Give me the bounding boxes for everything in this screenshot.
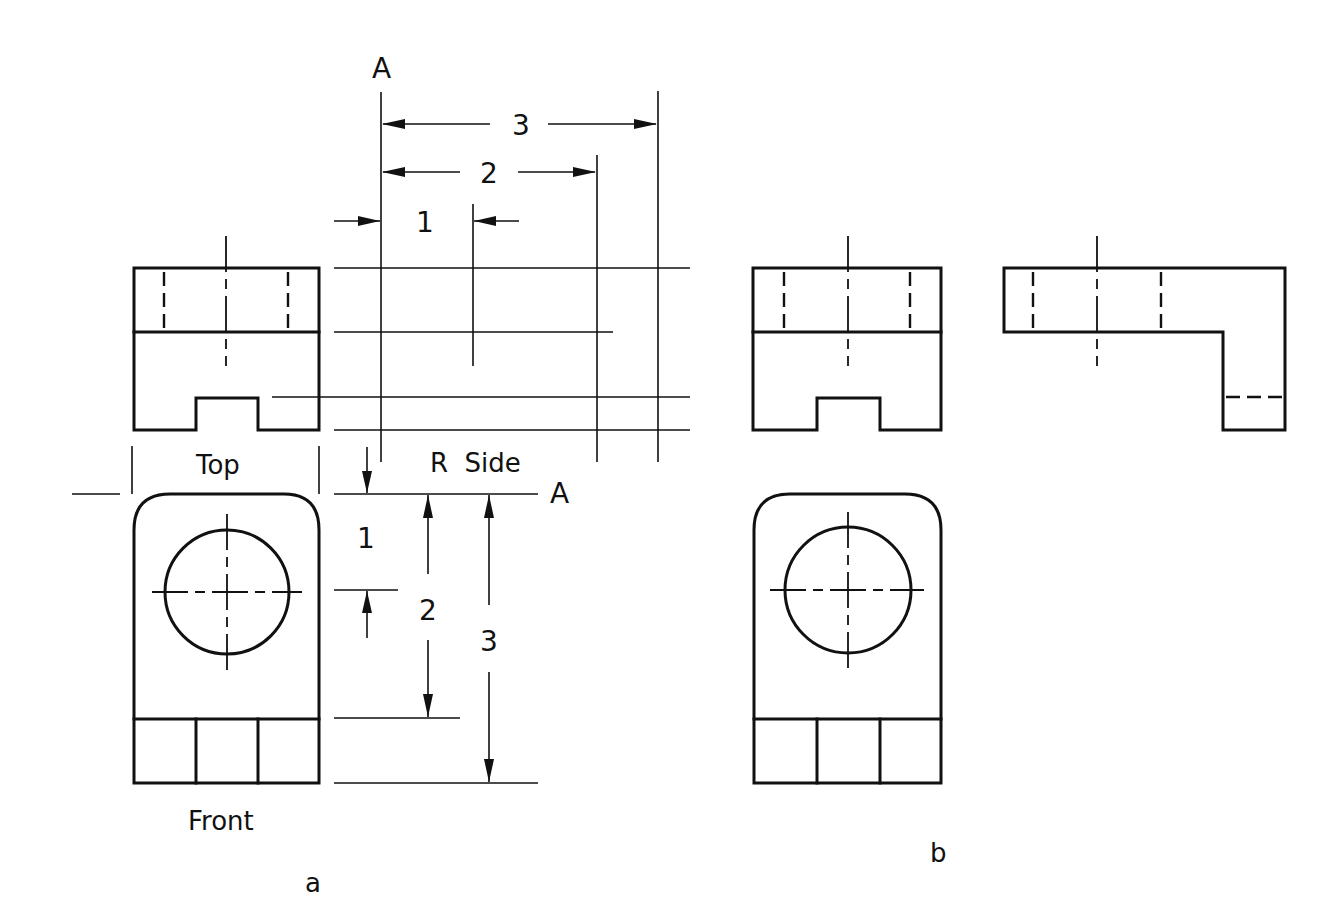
dim-v-3-label: 3 [480,625,498,658]
figure-label-b: b [930,838,947,868]
dim-h-2-label: 2 [480,157,498,190]
top-view-a [134,236,319,430]
right-side-view-label: R Side [430,448,521,478]
figure-label-a: a [305,868,321,898]
dim-v-2-label: 2 [419,594,437,627]
front-view-a [134,494,319,783]
front-view-b [754,494,941,783]
top-view-label: Top [195,450,240,480]
front-view-label: Front [188,806,254,836]
dim-h-1-label: 1 [416,206,434,239]
multiview-drawing: Top Front A A R Side [0,0,1343,920]
dim-h-3-label: 3 [512,109,530,142]
projection-lines [272,91,690,783]
reference-plane-a-right: A [550,477,569,510]
right-side-view-b [1004,236,1285,430]
reference-plane-a-top: A [372,52,391,85]
dim-v-1-label: 1 [357,522,375,555]
top-view-b [753,236,941,430]
